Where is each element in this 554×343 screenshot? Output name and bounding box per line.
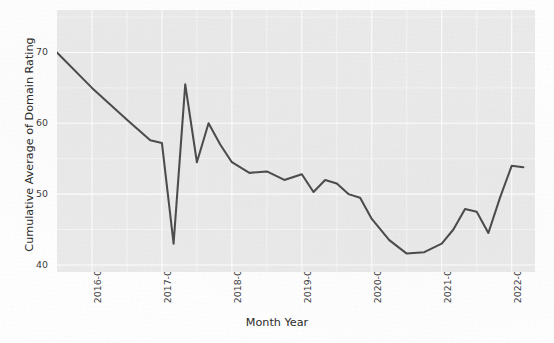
y-tick-label: 50 — [14, 188, 48, 199]
plot-panel — [57, 10, 535, 272]
y-axis-ticks: 40 50 60 70 — [14, 0, 48, 343]
minor-gridlines — [57, 10, 535, 272]
y-tick-label: 70 — [14, 46, 48, 57]
y-tick-label: 60 — [14, 117, 48, 128]
chart-figure: Cumulative Average of Domain Rating 40 5… — [0, 0, 554, 343]
x-axis-title: Month Year — [0, 316, 554, 329]
major-gridlines — [57, 10, 535, 272]
y-tick-label: 40 — [14, 259, 48, 270]
plot-area — [57, 10, 535, 272]
